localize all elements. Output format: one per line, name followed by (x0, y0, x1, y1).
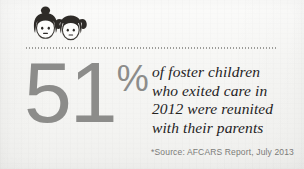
statement-line-4: with their parents (152, 119, 302, 138)
source-note: *Source: AFCARS Report, July 2013 (151, 147, 294, 157)
infographic-card: 51 % of foster children who exited care … (0, 0, 304, 169)
stat-figure: 51 % (24, 57, 149, 128)
percent-symbol: % (117, 61, 149, 97)
statement-text: of foster children who exited care in 20… (152, 63, 302, 137)
statement-line-3: 2012 were reunited (152, 100, 302, 119)
stat-number: 51 (24, 57, 116, 128)
two-children-faces-icon (26, 6, 98, 42)
child-face-pigtails (55, 16, 87, 40)
child-face-bun (34, 7, 57, 39)
statement-line-2: who exited care in (152, 82, 302, 101)
statement-line-1: of foster children (152, 63, 302, 82)
